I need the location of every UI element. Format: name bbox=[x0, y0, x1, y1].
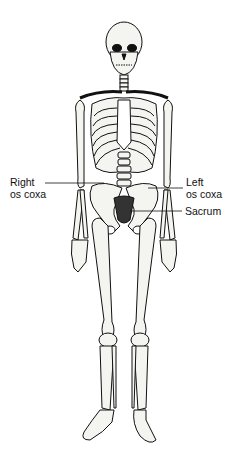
label-left-os-coxa: Left os coxa bbox=[186, 176, 222, 200]
lumbar-spine bbox=[117, 152, 131, 186]
left-arm bbox=[160, 100, 177, 272]
label-right-os-coxa-line1: Right bbox=[10, 176, 46, 188]
left-leg bbox=[131, 218, 156, 442]
skeleton-diagram: Right os coxa Left os coxa Sacrum bbox=[0, 0, 237, 462]
cervical-spine bbox=[120, 75, 128, 91]
label-left-os-coxa-line1: Left bbox=[186, 176, 222, 188]
skeleton-illustration bbox=[0, 0, 237, 462]
right-leg bbox=[83, 218, 117, 440]
clavicles bbox=[80, 92, 168, 98]
label-right-os-coxa: Right os coxa bbox=[10, 176, 46, 200]
label-sacrum: Sacrum bbox=[185, 205, 221, 217]
right-arm bbox=[71, 100, 88, 272]
skull bbox=[106, 22, 142, 75]
label-right-os-coxa-line2: os coxa bbox=[10, 188, 46, 200]
sacrum-bone bbox=[114, 196, 134, 223]
label-left-os-coxa-line2: os coxa bbox=[186, 188, 222, 200]
